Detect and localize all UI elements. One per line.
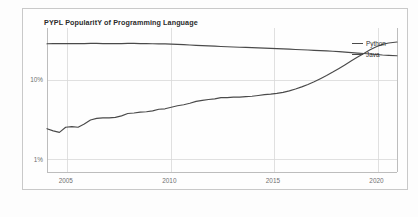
ytick-label-10%: 10% [15, 76, 43, 83]
chart-figure: PYPL PopularitY of Programming Language … [0, 0, 418, 217]
xtick-label-2015: 2015 [266, 177, 280, 184]
gridlines [47, 28, 397, 172]
legend-line-python [352, 43, 363, 44]
legend-label-python: Python [366, 40, 386, 47]
legend-label-java: Java [366, 51, 380, 58]
axis-lines [47, 28, 397, 172]
series-lines [47, 42, 397, 132]
xtick-label-2020: 2020 [369, 177, 383, 184]
chart-legend: Python Java [352, 38, 406, 60]
legend-item-python: Python [352, 38, 406, 48]
xtick-label-2005: 2005 [59, 177, 73, 184]
xtick-label-2010: 2010 [162, 177, 176, 184]
series-line-python [47, 42, 397, 132]
legend-item-java: Java [352, 49, 406, 59]
legend-line-java [352, 54, 363, 55]
plot-area [0, 0, 418, 217]
ytick-label-1%: 1% [15, 156, 43, 163]
series-line-java [47, 43, 397, 55]
